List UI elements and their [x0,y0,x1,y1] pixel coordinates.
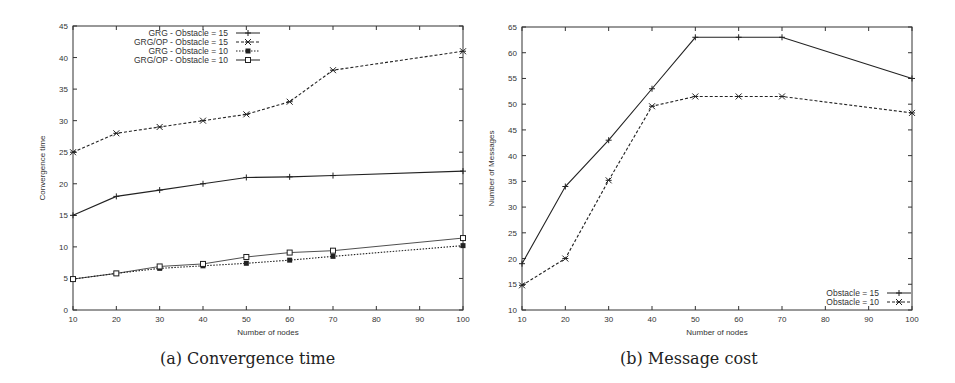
plus-marker [287,174,293,180]
y-axis-label: Number of Messages [487,130,496,206]
y-tick-label: 25 [59,148,68,157]
filled-square-marker [246,49,251,54]
open-square-marker [287,250,292,255]
filled-square-marker [244,261,249,266]
x-marker [736,93,742,99]
x-marker [157,124,163,130]
x-tick-label: 40 [648,315,657,324]
plus-marker [460,168,466,174]
filled-square-marker [461,243,466,248]
plus-marker [200,181,206,187]
y-tick-label: 10 [59,243,68,252]
x-marker [562,256,568,262]
open-square-marker [114,271,119,276]
y-axis-label: Convergence time [38,135,47,200]
plus-marker [519,261,525,267]
open-square-marker [461,236,466,241]
open-square-marker [201,261,206,266]
open-square-marker [244,254,249,259]
open-square-marker [71,277,76,282]
x-tick-label: 40 [199,315,208,324]
series-line [73,246,463,279]
y-tick-label: 50 [508,100,517,109]
plus-marker [779,34,785,40]
x-tick-label: 60 [734,315,743,324]
plus-marker [909,75,915,81]
x-tick-label: 10 [518,315,527,324]
y-tick-label: 10 [508,306,517,315]
plus-marker [736,34,742,40]
x-tick-label: 80 [372,315,381,324]
legend-label: Obstacle = 10 [826,297,879,307]
y-tick-label: 15 [508,280,517,289]
x-marker [200,118,206,124]
y-tick-label: 20 [508,255,517,264]
x-marker [245,39,251,45]
x-marker [287,99,293,105]
y-tick-label: 5 [64,274,69,283]
open-square-marker [331,248,336,253]
plus-marker [113,193,119,199]
legend-label: GRG/OP - Obstacle = 10 [134,55,228,65]
x-tick-label: 70 [778,315,787,324]
plus-marker [896,290,902,296]
plus-marker [70,212,76,218]
caption-message-cost: (b) Message cost [620,349,758,368]
y-tick-label: 45 [59,22,68,31]
x-marker [649,103,655,109]
x-tick-label: 80 [821,315,830,324]
y-tick-label: 35 [59,85,68,94]
message-cost-chart: 1020304050607080901001015202530354045505… [487,23,919,337]
plus-marker [243,174,249,180]
open-square-marker [157,264,162,269]
figure: 102030405060708090100051015202530354045N… [0,0,955,383]
y-tick-label: 40 [59,54,68,63]
x-marker [896,299,902,305]
plus-marker [330,173,336,179]
x-marker [606,177,612,183]
open-square-marker [246,58,251,63]
plus-marker [157,187,163,193]
series-line [73,238,463,279]
x-axis-label: Number of nodes [237,328,298,337]
x-marker [779,93,785,99]
series-line [73,171,463,215]
data-series [70,168,466,218]
x-axis-label: Number of nodes [686,328,747,337]
x-tick-label: 30 [155,315,164,324]
filled-square-marker [331,254,336,259]
convergence-time-chart: 102030405060708090100051015202530354045N… [38,22,470,337]
y-tick-label: 55 [508,74,517,83]
x-tick-label: 20 [112,315,121,324]
x-tick-label: 90 [864,315,873,324]
x-tick-label: 90 [415,315,424,324]
data-series [71,236,466,282]
y-tick-label: 40 [508,152,517,161]
x-tick-label: 50 [242,315,251,324]
y-tick-label: 65 [508,23,517,32]
filled-square-marker [287,258,292,263]
x-tick-label: 100 [456,315,470,324]
y-tick-label: 35 [508,177,517,186]
data-series [519,93,915,288]
y-tick-label: 15 [59,211,68,220]
x-tick-label: 60 [285,315,294,324]
x-tick-label: 20 [561,315,570,324]
series-line [522,96,912,285]
x-tick-label: 70 [329,315,338,324]
series-line [73,51,463,152]
x-marker [330,67,336,73]
y-tick-label: 45 [508,126,517,135]
plus-marker [245,30,251,36]
x-marker [243,111,249,117]
x-marker [113,130,119,136]
plot-frame [73,26,463,310]
series-line [522,37,912,263]
y-tick-label: 25 [508,229,517,238]
y-tick-label: 30 [508,203,517,212]
x-tick-label: 10 [69,315,78,324]
data-series [519,34,915,266]
figure-canvas: 102030405060708090100051015202530354045N… [0,0,955,383]
x-tick-label: 30 [604,315,613,324]
plot-frame [522,27,912,310]
